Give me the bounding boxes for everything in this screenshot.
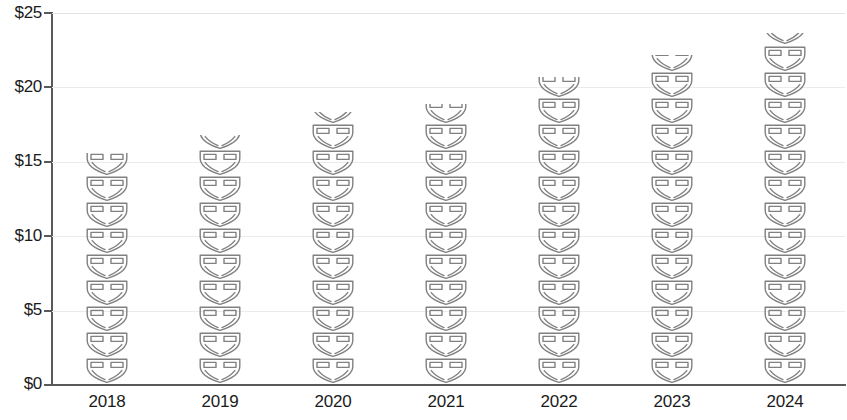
diaper-icon [537, 201, 581, 228]
diaper-icon [650, 305, 694, 332]
diaper-icon [198, 149, 242, 176]
diaper-icon [311, 123, 355, 150]
diaper-icon [311, 305, 355, 332]
diaper-icon [650, 201, 694, 228]
y-tick-label-25: $25 [15, 3, 42, 23]
diaper-icon [650, 331, 694, 358]
diaper-icon [763, 227, 807, 254]
diaper-icon [537, 331, 581, 358]
diaper-icon [85, 175, 129, 202]
diaper-icon [311, 201, 355, 228]
diaper-icon [763, 357, 807, 384]
diaper-icon [424, 201, 468, 228]
x-tick-label-2022: 2022 [504, 392, 614, 412]
diaper-icon-partial [311, 112, 355, 124]
diaper-icon [763, 331, 807, 358]
plot-area [52, 13, 845, 385]
diaper-icon [424, 175, 468, 202]
diaper-icon [311, 253, 355, 280]
pictograph-column-2021 [391, 13, 501, 385]
diaper-icon [311, 357, 355, 384]
diaper-icon [537, 175, 581, 202]
diaper-icon [85, 227, 129, 254]
diaper-icon [650, 71, 694, 98]
diaper-icon [424, 357, 468, 384]
diaper-icon-partial [85, 153, 129, 176]
x-tick-label-2024: 2024 [730, 392, 840, 412]
diaper-icon [424, 149, 468, 176]
diaper-icon [198, 357, 242, 384]
diaper-icon [650, 357, 694, 384]
diaper-icon [537, 227, 581, 254]
x-tick-label-2019: 2019 [165, 392, 275, 412]
diaper-icon [763, 71, 807, 98]
diaper-icon [424, 227, 468, 254]
diaper-icon [650, 253, 694, 280]
y-tick-label-20: $20 [15, 77, 42, 97]
diaper-icon [650, 175, 694, 202]
diaper-icon [85, 357, 129, 384]
diaper-icon [650, 123, 694, 150]
diaper-icon [311, 149, 355, 176]
diaper-icon [311, 227, 355, 254]
diaper-icon [424, 279, 468, 306]
diaper-icon-partial [198, 135, 242, 150]
diaper-icon [198, 331, 242, 358]
diaper-icon [763, 201, 807, 228]
diaper-icon [763, 97, 807, 124]
diaper-icon-partial [650, 55, 694, 72]
diaper-icon [763, 253, 807, 280]
pictograph-column-2022 [504, 13, 614, 385]
diaper-icon [763, 123, 807, 150]
diaper-icon [85, 253, 129, 280]
diaper-icon [763, 279, 807, 306]
diaper-icon [650, 97, 694, 124]
diaper-icon [537, 357, 581, 384]
x-tick-label-2018: 2018 [52, 392, 162, 412]
y-tick-label-15: $15 [15, 151, 42, 171]
pictograph-chart: $25 $20 $15 $10 $5 $0 2018 2019 2020 202… [0, 0, 847, 420]
diaper-icon [537, 123, 581, 150]
pictograph-column-2024 [730, 13, 840, 385]
diaper-icon-partial [537, 77, 581, 98]
diaper-icon [763, 175, 807, 202]
diaper-icon [85, 279, 129, 306]
diaper-icon [311, 331, 355, 358]
diaper-icon [763, 305, 807, 332]
diaper-icon [763, 45, 807, 72]
diaper-icon [650, 227, 694, 254]
diaper-icon [537, 253, 581, 280]
pictograph-column-2019 [165, 13, 275, 385]
diaper-icon [537, 279, 581, 306]
y-tick-label-0: $0 [24, 374, 42, 394]
diaper-icon [311, 279, 355, 306]
diaper-icon [198, 227, 242, 254]
diaper-icon [198, 201, 242, 228]
diaper-icon [537, 305, 581, 332]
diaper-icon [85, 201, 129, 228]
x-tick-label-2023: 2023 [617, 392, 727, 412]
y-tick-label-10: $10 [15, 226, 42, 246]
diaper-icon [537, 97, 581, 124]
diaper-icon [198, 279, 242, 306]
diaper-icon-partial [763, 33, 807, 45]
diaper-icon-partial [424, 104, 468, 124]
x-tick-label-2021: 2021 [391, 392, 501, 412]
diaper-icon [424, 123, 468, 150]
diaper-icon [198, 305, 242, 332]
diaper-icon [763, 149, 807, 176]
diaper-icon [424, 305, 468, 332]
diaper-icon [424, 253, 468, 280]
pictograph-column-2020 [278, 13, 388, 385]
diaper-icon [537, 149, 581, 176]
y-axis-labels: $25 $20 $15 $10 $5 $0 [0, 0, 42, 420]
x-tick-label-2020: 2020 [278, 392, 388, 412]
pictograph-column-2018 [52, 13, 162, 385]
diaper-icon [311, 175, 355, 202]
diaper-icon [650, 149, 694, 176]
diaper-icon [424, 331, 468, 358]
diaper-icon [198, 253, 242, 280]
diaper-icon [85, 305, 129, 332]
diaper-icon [85, 331, 129, 358]
diaper-icon [650, 279, 694, 306]
